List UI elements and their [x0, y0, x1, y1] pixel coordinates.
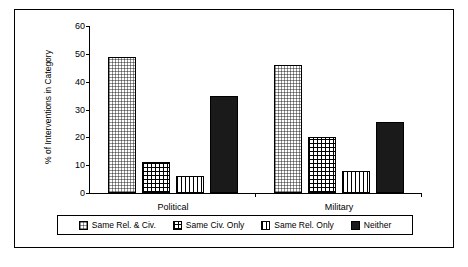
y-axis-tick-mark	[86, 54, 90, 55]
legend-item: Same Civ. Only	[173, 220, 244, 230]
y-axis-tick-label: 40	[50, 77, 90, 87]
bar	[210, 96, 238, 193]
y-axis-tick-label: 60	[50, 21, 90, 31]
legend-item: Same Rel. Only	[261, 220, 334, 230]
legend-swatch-icon	[79, 221, 88, 230]
y-axis-tick-mark	[86, 110, 90, 111]
legend-label: Same Civ. Only	[186, 220, 244, 230]
y-axis-tick-label: 50	[50, 49, 90, 59]
legend-label: Same Rel. Only	[274, 220, 334, 230]
y-axis-tick-mark	[86, 26, 90, 27]
y-axis-tick-label: 0	[50, 188, 90, 198]
bar	[376, 122, 404, 193]
y-axis-tick-mark	[86, 82, 90, 83]
y-axis-tick-label: 30	[50, 105, 90, 115]
bar	[176, 176, 204, 193]
x-axis-tick-mark	[255, 193, 256, 197]
y-axis-tick-mark	[86, 193, 90, 194]
legend-swatch-icon	[173, 221, 182, 230]
y-axis-tick-mark	[86, 165, 90, 166]
y-axis-tick-label: 20	[50, 132, 90, 142]
chart-legend: Same Rel. & Civ. Same Civ. Only Same Rel…	[57, 215, 413, 235]
y-axis-tick-label: 10	[50, 160, 90, 170]
x-axis-tick-label: Military	[325, 202, 354, 212]
legend-swatch-icon	[351, 221, 360, 230]
x-axis-tick-label: Political	[157, 202, 188, 212]
bar	[142, 162, 170, 193]
bar	[108, 57, 136, 193]
bar	[274, 65, 302, 193]
y-axis-tick-mark	[86, 137, 90, 138]
bar	[308, 137, 336, 193]
x-axis-tick-mark	[421, 193, 422, 197]
legend-label: Same Rel. & Civ.	[92, 220, 156, 230]
legend-swatch-icon	[261, 221, 270, 230]
chart-container: % of Interventions in Category 010203040…	[0, 0, 468, 267]
chart-frame: % of Interventions in Category 010203040…	[14, 9, 454, 248]
legend-item: Same Rel. & Civ.	[79, 220, 156, 230]
bar	[342, 171, 370, 193]
legend-label: Neither	[364, 220, 391, 230]
legend-item: Neither	[351, 220, 391, 230]
plot-area: 0102030405060PoliticalMilitary	[89, 26, 422, 194]
